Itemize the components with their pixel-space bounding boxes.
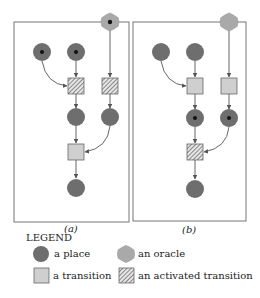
token-icon [74, 50, 78, 54]
transition-t2 [221, 78, 237, 94]
panel-b-caption: (b) [182, 224, 196, 235]
panel-b-oracle [220, 13, 238, 31]
transition-t3 [68, 144, 84, 160]
legend-oracle-label: an oracle [138, 248, 185, 259]
legend-oracle-icon [117, 245, 135, 263]
legend: LEGEND a place an oracle a transition an… [26, 232, 253, 283]
transition-t2-activated [102, 78, 118, 94]
legend-place-label: a place [54, 248, 90, 259]
token-icon [193, 116, 197, 120]
token-icon [40, 50, 44, 54]
legend-title: LEGEND [26, 232, 72, 243]
transition-t3-activated [187, 144, 203, 160]
panel-a: (a) [14, 13, 129, 234]
place-p4 [101, 108, 119, 126]
transition-t1 [187, 78, 203, 94]
place-p5 [186, 180, 204, 198]
legend-transition-label: a transition [53, 270, 112, 281]
place-p2 [186, 43, 204, 61]
panel-b: (b) [133, 13, 246, 235]
place-p3 [67, 108, 85, 126]
legend-activated-transition-label: an activated transition [138, 270, 253, 281]
legend-place-icon [33, 246, 49, 262]
legend-activated-transition-icon [119, 268, 134, 283]
place-p5 [67, 179, 85, 197]
petri-net-diagram: (a) (b) [0, 0, 260, 298]
token-icon [108, 20, 112, 24]
place-p1 [152, 43, 170, 61]
transition-t1-activated [68, 78, 84, 94]
token-icon [227, 116, 231, 120]
legend-transition-icon [34, 268, 49, 283]
panel-a-oracle [101, 13, 119, 31]
